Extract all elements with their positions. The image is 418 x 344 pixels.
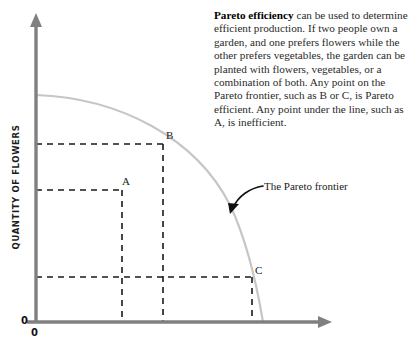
y-axis-arrowhead-icon	[30, 13, 42, 27]
point-label-c: C	[255, 264, 262, 276]
pareto-efficiency-figure: QUANTITY OF FLOWERS 0 0 A B C The Pareto…	[0, 0, 418, 344]
caption-lead-term: Pareto efficiency	[214, 9, 294, 21]
y-axis-label: QUANTITY OF FLOWERS	[11, 117, 21, 257]
point-label-b: B	[166, 129, 173, 141]
x-axis-origin-label: 0	[31, 327, 38, 338]
point-label-a: A	[122, 175, 130, 187]
x-axis-arrowhead-icon	[318, 316, 332, 328]
frontier-annotation-label: The Pareto frontier	[264, 180, 348, 192]
y-axis-origin-label: 0	[21, 315, 28, 326]
caption-body: can be used to determine efficient produ…	[214, 9, 408, 128]
caption-text: Pareto efficiency can be used to determi…	[214, 9, 412, 130]
